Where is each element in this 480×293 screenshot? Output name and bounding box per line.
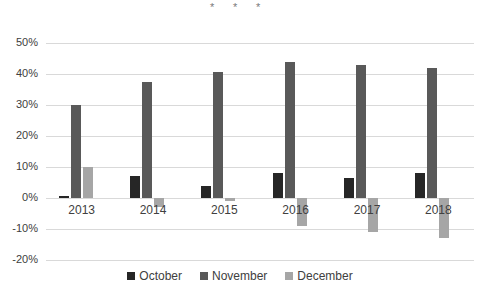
legend-swatch-icon bbox=[285, 272, 293, 280]
legend-label: December bbox=[297, 270, 352, 282]
legend-item-november[interactable]: November bbox=[200, 270, 267, 282]
legend-swatch-icon bbox=[127, 272, 135, 280]
y-axis-tick-label: 10% bbox=[0, 161, 38, 172]
y-axis-tick-label: -20% bbox=[0, 254, 38, 265]
legend-item-december[interactable]: December bbox=[285, 270, 352, 282]
bar-chart: *** 50%40%30%20%10%0%-10%-20% 2013201420… bbox=[0, 0, 480, 293]
y-axis-tick-label: 40% bbox=[0, 68, 38, 79]
legend-swatch-icon bbox=[200, 272, 208, 280]
chart-legend: OctoberNovemberDecember bbox=[0, 270, 480, 282]
y-axis-tick-label: 30% bbox=[0, 99, 38, 110]
y-axis-tick-label: -10% bbox=[0, 223, 38, 234]
legend-item-october[interactable]: October bbox=[127, 270, 182, 282]
legend-label: November bbox=[212, 270, 267, 282]
legend-label: October bbox=[139, 270, 182, 282]
y-axis-tick-label: 0% bbox=[0, 192, 38, 203]
y-axis-tick-label: 50% bbox=[0, 37, 38, 48]
y-axis-tick-label: 20% bbox=[0, 130, 38, 141]
y-axis: 50%40%30%20%10%0%-10%-20% bbox=[0, 0, 480, 293]
